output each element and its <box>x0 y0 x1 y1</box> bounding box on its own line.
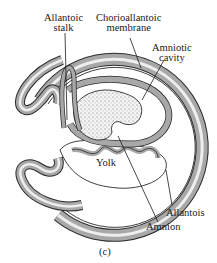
label-amnion: Amnion <box>146 222 180 232</box>
leader-allantois <box>166 170 172 205</box>
embryo-membrane-diagram: Allantoic stalk Chorioallantoic membrane… <box>0 0 217 263</box>
embryo <box>74 90 142 140</box>
label-amniotic-cavity: Amniotic cavity <box>152 43 192 63</box>
label-chorioallantoic-membrane: Chorioallantoic membrane <box>96 13 161 33</box>
label-allantoic-stalk: Allantoic stalk <box>44 13 83 33</box>
label-yolk: Yolk <box>96 158 116 168</box>
label-allantois: Allantois <box>166 208 205 218</box>
allantois-fold-upper <box>20 60 62 110</box>
diagram-canvas <box>0 0 217 263</box>
panel-label: (c) <box>99 247 111 257</box>
